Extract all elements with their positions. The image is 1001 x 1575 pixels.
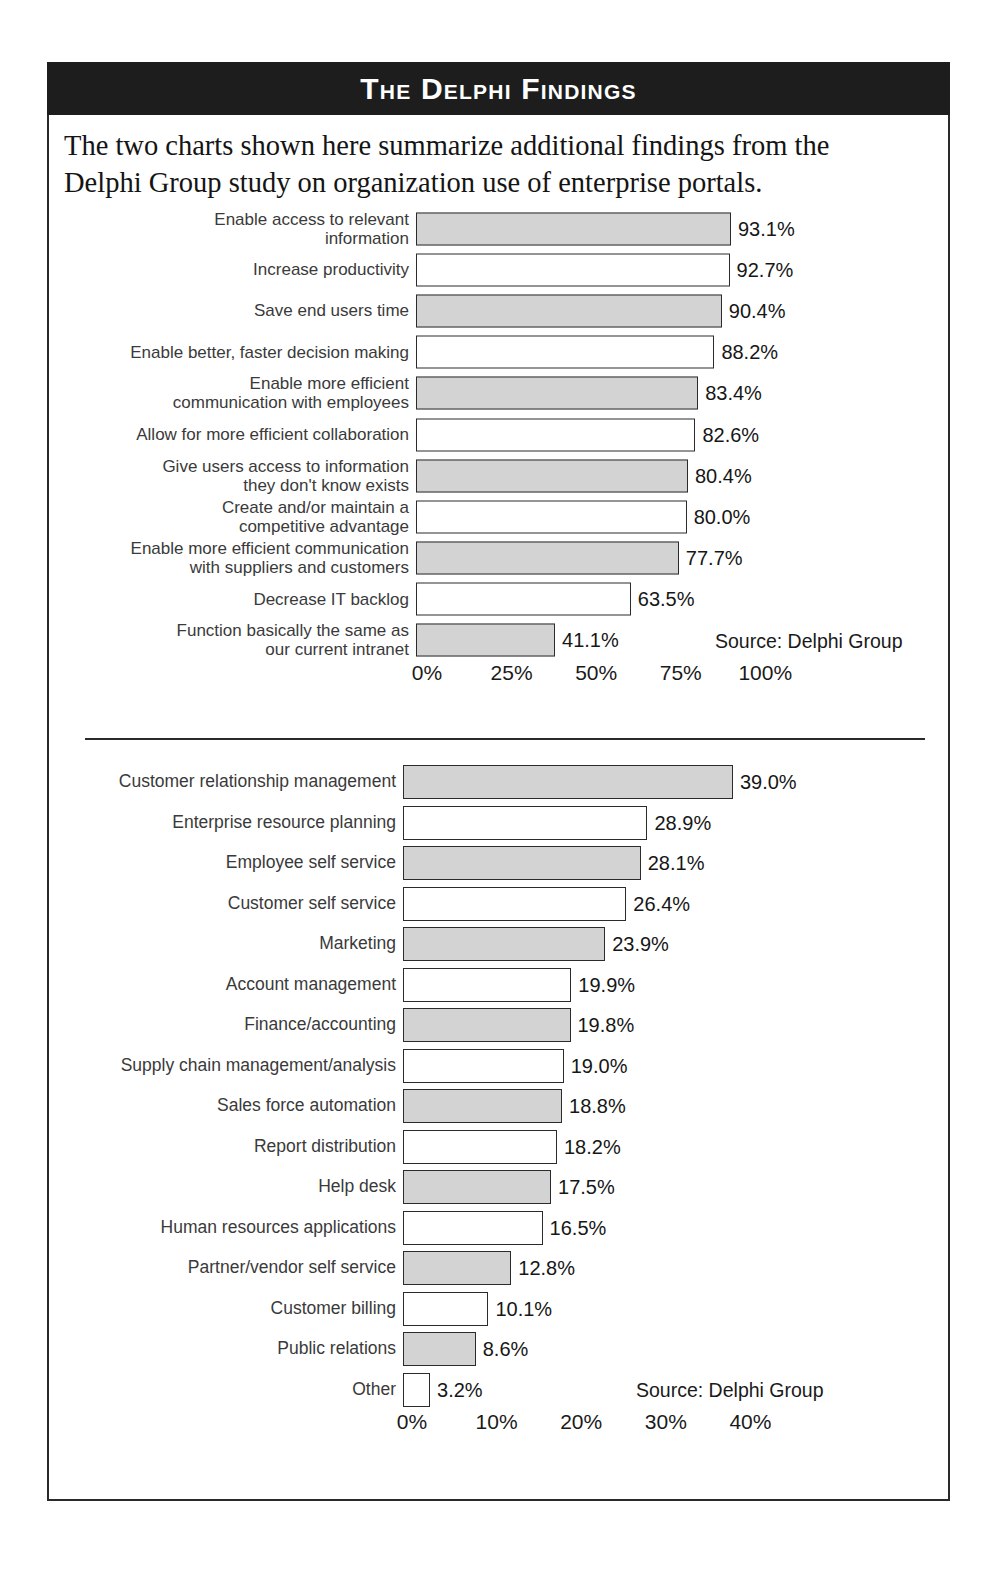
section-divider bbox=[85, 738, 925, 740]
bar-track: 83.4% bbox=[416, 373, 903, 414]
bar bbox=[403, 1170, 551, 1204]
bar-category-label-line: Customer relationship management bbox=[119, 772, 396, 792]
bar-category-label-line: Function basically the same as bbox=[177, 621, 409, 640]
bar-category-label-line: Enterprise resource planning bbox=[172, 813, 396, 833]
x-axis: 0%25%50%75%100% bbox=[416, 661, 903, 691]
page-title: The Delphi Findings bbox=[360, 74, 636, 104]
bar bbox=[403, 887, 626, 921]
bar-category-label: Employee self service bbox=[0, 843, 403, 884]
chart-bar-row: Create and/or maintain acompetitive adva… bbox=[0, 496, 903, 537]
bar-category-label-line: Save end users time bbox=[254, 301, 409, 320]
intro-paragraph: The two charts shown here summarize addi… bbox=[64, 127, 935, 201]
bar-category-label: Help desk bbox=[0, 1167, 403, 1208]
bar bbox=[403, 1251, 511, 1285]
bar bbox=[416, 377, 698, 410]
bar-category-label: Report distribution bbox=[0, 1127, 403, 1168]
bar bbox=[416, 212, 731, 245]
bar-track: 93.1% bbox=[416, 208, 903, 249]
bar-value-label: 19.0% bbox=[571, 1054, 628, 1077]
bar bbox=[403, 1049, 564, 1083]
bar-category-label: Supply chain management/analysis bbox=[0, 1046, 403, 1087]
chart-bar-row: Partner/vendor self service12.8% bbox=[0, 1248, 903, 1289]
bar-category-label-line: our current intranet bbox=[265, 640, 409, 659]
chart-bar-row: Public relations8.6% bbox=[0, 1329, 903, 1370]
bar-value-label: 18.8% bbox=[569, 1095, 626, 1118]
bar bbox=[403, 846, 641, 880]
chart-bar-row: Employee self service28.1% bbox=[0, 843, 903, 884]
bar bbox=[416, 336, 714, 369]
bar-category-label-line: Human resources applications bbox=[161, 1218, 396, 1238]
bar-category-label-line: Customer billing bbox=[271, 1299, 396, 1319]
bar-value-label: 10.1% bbox=[495, 1297, 552, 1320]
bar-category-label: Marketing bbox=[0, 924, 403, 965]
chart-bar-row: Report distribution18.2% bbox=[0, 1127, 903, 1168]
bar-track: 10.1% bbox=[403, 1289, 903, 1330]
bar-value-label: 88.2% bbox=[721, 341, 778, 364]
bar bbox=[416, 253, 730, 286]
bar-track: 19.0% bbox=[403, 1046, 903, 1087]
bar-track: 90.4% bbox=[416, 290, 903, 331]
bar-value-label: 90.4% bbox=[729, 299, 786, 322]
bar-value-label: 77.7% bbox=[686, 547, 743, 570]
bar-track: 16.5% bbox=[403, 1208, 903, 1249]
chart-axis-row: 0%25%50%75%100% bbox=[0, 661, 903, 695]
bar-category-label: Enable access to relevantinformation bbox=[0, 208, 416, 249]
bar-category-label: Enable more efficient communicationwith … bbox=[0, 538, 416, 579]
bar-value-label: 8.6% bbox=[483, 1338, 529, 1361]
bar bbox=[403, 806, 647, 840]
chart-bar-row: Sales force automation18.8% bbox=[0, 1086, 903, 1127]
bar-value-label: 80.4% bbox=[695, 464, 752, 487]
bar-track: 28.9% bbox=[403, 803, 903, 844]
chart-bar-row: Enable access to relevantinformation93.1… bbox=[0, 208, 903, 249]
bar-category-label-line: Employee self service bbox=[226, 853, 396, 873]
x-axis-tick-label: 30% bbox=[645, 1410, 687, 1434]
bar-track: 18.2% bbox=[403, 1127, 903, 1168]
bar bbox=[403, 1292, 488, 1326]
chart-source-note: Source: Delphi Group bbox=[636, 1379, 824, 1402]
axis-spacer bbox=[0, 1410, 403, 1444]
bar-category-label-line: Enable more efficient communication bbox=[131, 539, 409, 558]
bar-category-label: Enterprise resource planning bbox=[0, 803, 403, 844]
bar-value-label: 82.6% bbox=[702, 423, 759, 446]
bar-value-label: 18.2% bbox=[564, 1135, 621, 1158]
bar bbox=[403, 968, 571, 1002]
bar bbox=[416, 418, 695, 451]
bar-category-label-line: Enable more efficient bbox=[250, 374, 409, 393]
x-axis-tick-label: 100% bbox=[738, 661, 792, 685]
x-axis: 0%10%20%30%40% bbox=[403, 1410, 903, 1440]
bar bbox=[403, 1332, 476, 1366]
bar-value-label: 80.0% bbox=[694, 505, 751, 528]
bar-value-label: 19.8% bbox=[578, 1014, 635, 1037]
bar-value-label: 26.4% bbox=[633, 892, 690, 915]
bar-category-label-line: Sales force automation bbox=[217, 1096, 396, 1116]
bar-value-label: 28.1% bbox=[648, 852, 705, 875]
chart-bar-row: Human resources applications16.5% bbox=[0, 1208, 903, 1249]
bar-category-label-line: Give users access to information bbox=[162, 457, 409, 476]
bar-value-label: 23.9% bbox=[612, 933, 669, 956]
bar bbox=[416, 542, 679, 575]
bar-value-label: 63.5% bbox=[638, 588, 695, 611]
chart-bar-row: Increase productivity92.7% bbox=[0, 249, 903, 290]
bar-value-label: 17.5% bbox=[558, 1176, 615, 1199]
bar-category-label-line: Enable access to relevant bbox=[214, 210, 409, 229]
chart-bar-row: Marketing23.9% bbox=[0, 924, 903, 965]
bar-category-label-line: Supply chain management/analysis bbox=[121, 1056, 396, 1076]
bar-value-label: 83.4% bbox=[705, 382, 762, 405]
bar-category-label-line: Help desk bbox=[318, 1177, 396, 1197]
chart-bar-row: Enable more efficientcommunication with … bbox=[0, 373, 903, 414]
bar-track: 28.1% bbox=[403, 843, 903, 884]
bar-category-label: Enable more efficientcommunication with … bbox=[0, 373, 416, 414]
chart-bar-row: Enterprise resource planning28.9% bbox=[0, 803, 903, 844]
bar-value-label: 12.8% bbox=[518, 1257, 575, 1280]
bar-category-label-line: they don't know exists bbox=[243, 476, 409, 495]
bar-track: 88.2% bbox=[416, 332, 903, 373]
chart-bar-row: Customer self service26.4% bbox=[0, 884, 903, 925]
bar bbox=[403, 1130, 557, 1164]
chart-bar-row: Help desk17.5% bbox=[0, 1167, 903, 1208]
x-axis-tick-label: 10% bbox=[476, 1410, 518, 1434]
bar-category-label: Account management bbox=[0, 965, 403, 1006]
bar-category-label-line: with suppliers and customers bbox=[190, 558, 409, 577]
bar-category-label-line: Customer self service bbox=[228, 894, 396, 914]
bar-category-label-line: Marketing bbox=[319, 934, 396, 954]
chart-bar-row: Finance/accounting19.8% bbox=[0, 1005, 903, 1046]
